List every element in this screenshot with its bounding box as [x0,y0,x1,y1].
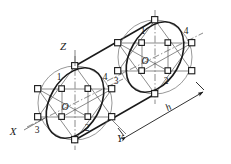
isometric-cylinder-drawing: Z X Y 1 4 3 2 O 1 4 3 2 O h [0,0,231,164]
right-radial-e [118,43,155,94]
dimension-label-h: h [163,101,173,113]
left-center-label-o: O [61,101,68,112]
right-center-label-o: O [141,55,148,66]
left-point-label-2: 2 [85,123,90,133]
right-point-label-2: 2 [164,76,169,86]
left-point-label-1: 1 [57,72,62,82]
left-node-inner-d [85,114,91,120]
right-point-label-3: 3 [114,76,119,86]
left-node-p2 [109,114,115,120]
right-node-bottom [152,91,158,97]
right-node-p3 [115,68,121,74]
left-node-left [35,86,41,92]
left-node-inner-b [85,86,91,92]
right-node-inner-a [139,40,145,46]
right-node-right [189,40,195,46]
right-node-inner-b [165,40,171,46]
axis-label-y: Y [117,132,125,144]
axis-label-x: X [9,125,18,137]
left-node-inner-a [59,86,65,92]
figure-canvas: Z X Y 1 4 3 2 O 1 4 3 2 O h [0,0,231,164]
right-node-p2 [189,68,195,74]
right-point-label-4: 4 [184,26,189,36]
left-node-right [109,86,115,92]
right-node-inner-c [139,68,145,74]
left-point-label-3: 3 [35,125,40,135]
left-node-p3 [35,114,41,120]
right-point-label-1: 1 [141,26,146,36]
dim-extension-right [196,82,204,90]
axis-label-z: Z [60,40,67,52]
dim-line-h [126,92,203,137]
left-point-label-4: 4 [103,72,108,82]
left-node-inner-c [59,114,65,120]
right-node-top [152,17,158,23]
right-node-inner-d [165,68,171,74]
left-radial-e [38,89,75,140]
left-node-bottom [72,137,78,143]
right-node-left [115,40,121,46]
dimension-h [118,82,204,137]
